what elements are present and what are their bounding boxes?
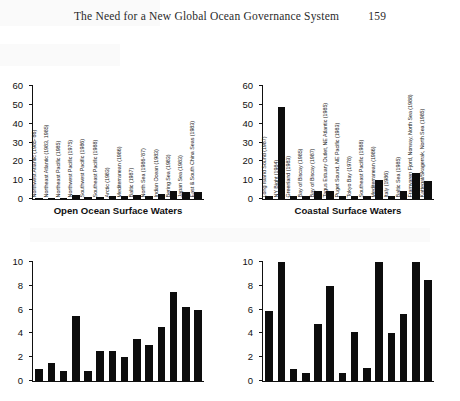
plot-area: 0246810 bbox=[32, 262, 204, 382]
bar-slot bbox=[45, 262, 57, 381]
bar bbox=[182, 307, 190, 381]
bar-category-label: Southwest Pacific (1986) bbox=[80, 139, 85, 197]
bar-slot bbox=[312, 262, 324, 381]
y-tick-label: 10 bbox=[12, 174, 23, 185]
bar-slot bbox=[336, 262, 348, 381]
bar-category-label: Northeast Pacific (1985) bbox=[56, 140, 61, 197]
y-tick-label: 0 bbox=[18, 193, 23, 204]
bar-category-label: East & South China Seas (1983) bbox=[190, 121, 195, 197]
bar-slot bbox=[192, 262, 204, 381]
bar-category-label: Bering Sea (1983) bbox=[166, 154, 171, 197]
plot-area: 0246810 bbox=[262, 262, 434, 382]
bar bbox=[375, 262, 383, 381]
y-tick-label: 40 bbox=[242, 117, 253, 128]
bar-category-label: Southeast Pacific (1988) bbox=[92, 139, 97, 197]
y-tick-label: 0 bbox=[248, 375, 253, 386]
bar-category-label: Tagus Estuary Outlet, NE Atlantic (1985) bbox=[322, 103, 327, 197]
y-tick-label: 50 bbox=[242, 98, 253, 109]
caption-coastal: Coastal Surface Waters bbox=[242, 205, 454, 216]
bar-series: Long Island Sound (1987)NY Bight (1984)G… bbox=[263, 86, 434, 199]
bar bbox=[121, 357, 129, 381]
y-tick-label: 4 bbox=[18, 327, 23, 338]
y-tick-label: 0 bbox=[248, 193, 253, 204]
bar-category-label: Northwest Pacific (1975) bbox=[68, 139, 73, 197]
y-tick-label: 30 bbox=[12, 136, 23, 147]
bar bbox=[48, 198, 56, 199]
bar bbox=[133, 339, 141, 381]
bar bbox=[158, 327, 166, 381]
bar bbox=[84, 197, 92, 199]
bar-category-label: Southeast Pacific (1988) bbox=[359, 139, 364, 197]
bar-slot bbox=[373, 262, 385, 381]
bar-slot bbox=[57, 262, 69, 381]
y-tick-label: 6 bbox=[248, 303, 253, 314]
bar-slot bbox=[155, 262, 167, 381]
bar bbox=[278, 262, 286, 381]
bar-slot bbox=[131, 262, 143, 381]
bar bbox=[194, 310, 202, 381]
chart-coastal-bottom: 0246810 bbox=[262, 262, 434, 382]
y-tick-label: 10 bbox=[242, 174, 253, 185]
bar bbox=[400, 314, 408, 381]
bar-category-label: North Sea (1986-'87) bbox=[141, 148, 146, 197]
bar-category-label: Kattegat/Skagerrak, North Sea (1985) bbox=[420, 108, 425, 197]
scan-artifact bbox=[0, 44, 120, 66]
bar-category-label: Indian Ocean (1983) bbox=[153, 149, 158, 197]
bar-category-label: NY Bight (1984) bbox=[273, 159, 278, 197]
bar-category-label: Mediterranean (1986) bbox=[371, 146, 376, 197]
y-tick-label: 20 bbox=[242, 155, 253, 166]
y-tick-label: 2 bbox=[248, 351, 253, 362]
bar bbox=[412, 262, 420, 381]
bar-slot bbox=[33, 262, 45, 381]
bar-slot bbox=[167, 262, 179, 381]
y-tick-label: 60 bbox=[12, 80, 23, 91]
page-running-head: The Need for a New Global Ocean Governan… bbox=[0, 10, 460, 22]
chart-coastal-top: 0102030405060 Long Island Sound (1987)NY… bbox=[262, 86, 434, 200]
bar-category-label: Arctic (1983) bbox=[104, 167, 109, 197]
y-tick-label: 60 bbox=[242, 80, 253, 91]
bar-slot bbox=[275, 262, 287, 381]
chart-open-ocean-bottom: 0246810 bbox=[32, 262, 204, 382]
running-head-title: The Need for a New Global Ocean Governan… bbox=[74, 10, 339, 22]
bar-category-label: Tokyo Bay (1978) bbox=[347, 156, 352, 197]
bar-category-label: Japan Sea (1983) bbox=[178, 155, 183, 197]
bar-category-label: Puget Sound, NE Pacific (1983) bbox=[334, 122, 339, 197]
bar bbox=[314, 324, 322, 381]
y-tick-label: 0 bbox=[18, 375, 23, 386]
bar-slot bbox=[422, 262, 434, 381]
bar-category-label: Italy (1986) bbox=[383, 171, 388, 197]
bar-slot bbox=[397, 262, 409, 381]
bar bbox=[48, 363, 56, 381]
bar-category-label: Northeast Atlantic (1983, 1985) bbox=[43, 124, 48, 197]
bar-series: Northwest Atlantic (1985-'86)Northeast A… bbox=[33, 86, 204, 199]
bar bbox=[265, 311, 273, 381]
bar bbox=[72, 316, 80, 381]
bar-category-label: Bay of Biscay (1987) bbox=[310, 148, 315, 197]
y-tick-label: 10 bbox=[12, 256, 23, 267]
bar bbox=[339, 373, 347, 381]
bar bbox=[145, 345, 153, 381]
bar-slot bbox=[349, 262, 361, 381]
bar-slot bbox=[300, 262, 312, 381]
bar bbox=[96, 351, 104, 381]
plot-area: 0102030405060 Northwest Atlantic (1985-'… bbox=[32, 86, 204, 200]
bar-slot bbox=[263, 262, 275, 381]
bar-slot bbox=[94, 262, 106, 381]
bar bbox=[170, 292, 178, 381]
y-tick-label: 8 bbox=[18, 279, 23, 290]
bar-slot bbox=[385, 262, 397, 381]
y-tick-label: 30 bbox=[242, 136, 253, 147]
bar bbox=[326, 286, 334, 381]
bar-slot bbox=[180, 262, 192, 381]
bar bbox=[302, 373, 310, 381]
bar bbox=[290, 369, 298, 381]
bar-slot bbox=[119, 262, 131, 381]
y-tick-label: 10 bbox=[242, 256, 253, 267]
chart-open-ocean-top: 0102030405060 Northwest Atlantic (1985-'… bbox=[32, 86, 204, 200]
bar-slot bbox=[287, 262, 299, 381]
bar-category-label: Greenland (1983) bbox=[286, 156, 291, 197]
y-tick-label: 6 bbox=[18, 303, 23, 314]
bar bbox=[424, 181, 432, 199]
bar-category-label: Long Island Sound (1987) bbox=[261, 136, 266, 197]
bar bbox=[35, 198, 43, 199]
